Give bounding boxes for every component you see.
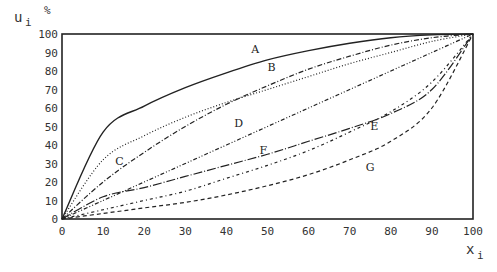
x-tick-label: 90 <box>425 225 438 238</box>
x-tick-label: 60 <box>302 225 315 238</box>
curve-label-a: A <box>250 43 260 56</box>
x-tick-label: 50 <box>261 225 274 238</box>
chart: 0102030405060708090100010203040506070809… <box>0 0 497 272</box>
x-tick-label: 40 <box>220 225 233 238</box>
x-tick-label: 10 <box>96 225 109 238</box>
curve-label-d: D <box>234 117 243 130</box>
y-axis-label-sub: i <box>25 16 32 29</box>
y-tick-label: 80 <box>45 65 58 78</box>
y-axis-unit: % <box>44 4 51 17</box>
x-tick-label: 70 <box>343 225 356 238</box>
y-tick-label: 20 <box>45 176 58 189</box>
y-tick-label: 60 <box>45 102 58 115</box>
y-tick-label: 50 <box>45 121 58 134</box>
curve-label-e: E <box>370 120 378 133</box>
curve-label-f: F <box>260 144 268 157</box>
y-tick-label: 30 <box>45 158 58 171</box>
x-tick-label: 30 <box>179 225 192 238</box>
x-axis-label-sub: i <box>477 249 484 262</box>
x-tick-label: 20 <box>138 225 151 238</box>
y-axis-label: u <box>14 9 22 25</box>
x-tick-label: 0 <box>59 225 66 238</box>
y-tick-label: 40 <box>45 139 58 152</box>
y-tick-label: 90 <box>45 47 58 60</box>
curve-label-c: C <box>115 155 123 168</box>
curve-label-g: G <box>366 161 375 174</box>
y-tick-label: 70 <box>45 84 58 97</box>
y-tick-label: 0 <box>51 213 58 226</box>
x-axis-label: x <box>466 241 474 257</box>
x-tick-label: 80 <box>384 225 397 238</box>
curve-label-b: B <box>268 61 276 74</box>
y-tick-label: 10 <box>45 195 58 208</box>
x-tick-label: 100 <box>463 225 483 238</box>
y-tick-label: 100 <box>38 28 58 41</box>
